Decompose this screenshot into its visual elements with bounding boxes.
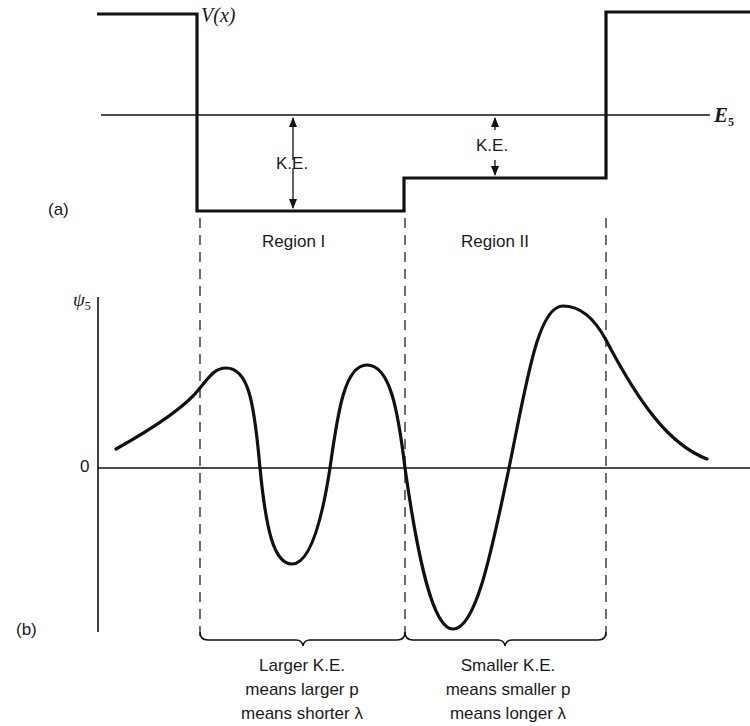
caption-region2: Smaller K.E. means smaller p means longe…	[403, 654, 613, 726]
panel-a-label: (a)	[48, 200, 69, 220]
ke-label-region2: K.E.	[476, 136, 508, 156]
diagram-canvas	[0, 0, 750, 726]
psi-label: ψ5	[73, 289, 91, 314]
region2-label: Region II	[461, 232, 529, 252]
caption-region1: Larger K.E. means larger p means shorter…	[197, 654, 407, 726]
caption-region1-line1: Larger K.E.	[197, 654, 407, 678]
caption-region1-line3: means shorter λ	[197, 702, 407, 726]
energy-label-main: E	[714, 103, 728, 127]
zero-label: 0	[80, 457, 89, 477]
brace-region2	[405, 632, 606, 646]
region-boundaries	[200, 218, 606, 640]
psi-label-sub: 5	[85, 299, 91, 313]
region1-label: Region I	[262, 232, 325, 252]
potential-curve	[97, 12, 750, 211]
psi-label-main: ψ	[73, 289, 85, 310]
caption-region2-line1: Smaller K.E.	[403, 654, 613, 678]
ke-label-region1: K.E.	[276, 154, 308, 174]
caption-region2-line3: means longer λ	[403, 702, 613, 726]
energy-label: E5	[714, 103, 734, 130]
potential-label-main: V	[201, 4, 213, 26]
caption-region2-line2: means smaller p	[403, 678, 613, 702]
caption-region1-line2: means larger p	[197, 678, 407, 702]
panel-b-label: (b)	[16, 620, 37, 640]
brace-region1	[200, 632, 405, 646]
energy-label-sub: 5	[728, 115, 734, 129]
potential-label-arg: (x)	[213, 4, 235, 26]
potential-label: V(x)	[201, 4, 235, 27]
